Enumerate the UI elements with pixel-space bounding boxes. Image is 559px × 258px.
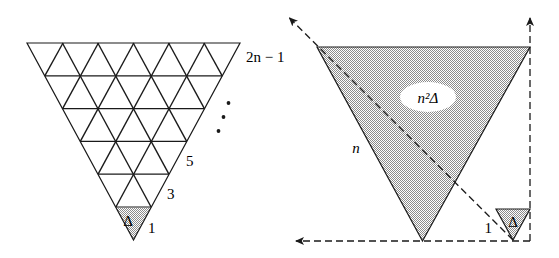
right-panel-scaled-triangle: n²Δ n 1 Δ [290,18,531,241]
vertical-ellipsis-dots [217,101,231,133]
unit-cell-delta-label: Δ [123,213,133,229]
row-label-five: 5 [186,153,194,169]
proof-without-words-figure: 2n − 1 5 3 1 Δ [0,0,559,258]
row-label-top: 2n − 1 [246,49,284,65]
row-separator-lines [45,76,223,207]
figure-canvas: 2n − 1 5 3 1 Δ [0,0,559,258]
row-label-one: 1 [148,220,156,236]
unit-area-delta-label: Δ [508,214,518,230]
side-label-n: n [352,140,360,156]
unit-side-label-one: 1 [485,220,493,236]
shaded-unit-triangle [116,208,151,240]
left-panel-subdivided-triangle: 2n − 1 5 3 1 Δ [27,43,284,240]
left-leaning-lattice-lines [62,43,222,207]
right-leaning-lattice-lines [45,43,205,207]
area-label-n-squared-delta: n²Δ [418,90,439,106]
row-label-three: 3 [167,186,175,202]
